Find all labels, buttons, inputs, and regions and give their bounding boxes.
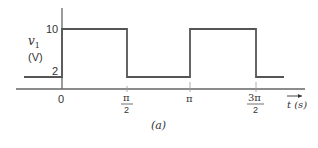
y-label-unit: (V) [28, 51, 43, 63]
x-tick-3pi-over-2: 3π 2 [247, 92, 264, 115]
figure-caption: (a) [151, 119, 166, 132]
x-tick-pi: π [186, 93, 193, 104]
svg-text:3π: 3π [248, 92, 261, 103]
svg-text:π: π [123, 92, 130, 103]
x-tick-0: 0 [58, 93, 64, 105]
x-tick-pi-over-2: π 2 [121, 92, 133, 115]
svg-text:t (s): t (s) [287, 99, 307, 110]
x-axis-label: t (s) [287, 94, 307, 110]
y-tick-2: 2 [52, 65, 58, 77]
y-label-symbol: v1 [28, 34, 40, 50]
svg-text:2: 2 [124, 105, 129, 115]
svg-text:2: 2 [253, 105, 258, 115]
y-tick-10: 10 [46, 23, 58, 35]
square-wave-diagram: 10 2 v1 (V) 0 π 2 π 3π 2 t (s) (a) [0, 0, 318, 148]
waveform-v1 [24, 29, 284, 77]
